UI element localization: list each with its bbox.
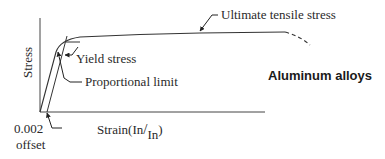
x-label-suffix: )	[158, 122, 162, 137]
proportional-limit-label: Proportional limit	[85, 74, 178, 89]
offset-value-label: 0.002	[14, 121, 43, 136]
ultimate-stress-leader	[200, 15, 218, 31]
stress-strain-curve	[40, 32, 285, 112]
ultimate-tensile-stress-label: Ultimate tensile stress	[221, 7, 336, 22]
y-axis-label: Stress	[20, 47, 35, 78]
x-label-denominator: In	[147, 127, 158, 142]
x-label-numerator: In	[132, 122, 143, 137]
diagram-title: Aluminum alloys	[268, 68, 372, 83]
x-label-prefix: Strain(	[97, 122, 132, 137]
fracture-dashed-curve	[285, 32, 310, 45]
stress-strain-diagram: Stress Yield stress Proportional limit U…	[0, 0, 385, 159]
offset-leader	[47, 113, 62, 128]
yield-stress-label: Yield stress	[76, 51, 136, 66]
x-axis-label: Strain(In/In)	[97, 121, 163, 142]
offset-word-label: offset	[16, 137, 46, 152]
svg-text:Strain(In/In): Strain(In/In)	[97, 121, 163, 142]
